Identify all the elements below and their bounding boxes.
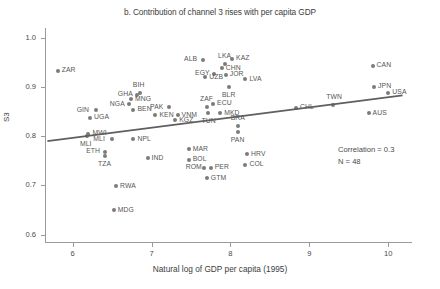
data-point-label: PAK [150,103,163,110]
data-point [167,105,171,109]
y-axis-line [45,28,46,243]
data-point-label: COL [249,160,263,167]
data-point-label: MDG [118,206,134,213]
data-point [85,134,89,138]
data-point [243,77,247,81]
data-point-label: ECU [217,99,232,106]
y-tick-label: 0.6 [10,230,36,239]
x-axis-line [45,242,412,243]
x-tick-mark [388,243,389,247]
data-point [386,91,390,95]
y-axis-title: S3 [2,112,11,122]
x-tick-label: 10 [377,249,399,258]
data-point [371,64,375,68]
data-point-label: ROM [186,163,202,170]
data-point-label: MAR [193,145,208,152]
data-point-label: NGA [110,100,125,107]
y-tick-label: 0.8 [10,131,36,140]
data-point-label: JPN [378,82,391,89]
data-point-label: UZB [209,73,223,80]
data-point [224,73,228,77]
data-point-label: NPL [137,135,151,142]
data-point [227,85,231,89]
data-point-label: CHL [300,103,314,110]
data-point-label: AUS [373,109,387,116]
correlation-text: Correlation = 0.3 [338,144,394,156]
data-point [230,57,234,61]
data-point-label: MLI [93,135,105,142]
data-point-label: IND [152,154,164,161]
data-point [173,118,177,122]
data-point [103,154,107,158]
data-point [206,111,210,115]
data-point-label: GIN [77,106,89,113]
data-point [112,208,116,212]
data-point [294,106,298,110]
y-tick-mark [41,38,45,39]
data-point [205,105,209,109]
data-point-label: PAN [231,136,245,143]
data-point [187,147,191,151]
data-point [218,111,222,115]
data-point-label: HRV [251,150,266,157]
data-point-label: BRA [231,114,245,121]
data-point-label: KGZ [179,116,193,123]
y-tick-mark [41,136,45,137]
data-point-label: USA [392,88,406,95]
data-point [205,176,209,180]
data-point [110,137,114,141]
data-point [127,102,131,106]
y-tick-label: 1.0 [10,33,36,42]
data-point [153,113,157,117]
data-point [129,97,133,101]
x-tick-label: 7 [141,249,163,258]
data-point [56,69,60,73]
data-point-label: LVA [249,75,261,82]
data-point-label: KEN [159,111,173,118]
data-point-label: ALB [184,55,197,62]
data-point [187,158,191,162]
y-tick-mark [41,87,45,88]
scatter-chart-figure: b. Contribution of channel 3 rises with … [0,0,440,289]
data-point-label: UGA [94,113,109,120]
data-point [372,85,376,89]
data-point [236,124,240,128]
data-point [211,102,215,106]
data-point-label: MLI [80,140,92,147]
data-point-label: TZA [98,160,111,167]
x-tick-label: 9 [298,249,320,258]
data-point [131,108,135,112]
data-point-label: ZAF [200,95,213,102]
y-tick-label: 0.7 [10,180,36,189]
data-point-label: TWN [326,93,342,100]
data-point [236,130,240,134]
data-point-label: JOR [230,70,244,77]
data-point [331,103,335,107]
data-point [88,116,92,120]
data-point-label: PER [215,163,229,170]
y-tick-mark [41,185,45,186]
data-point [243,163,247,167]
data-point [203,75,207,79]
x-tick-label: 8 [219,249,241,258]
chart-title: b. Contribution of channel 3 rises with … [0,7,440,17]
data-point-label: CAN [377,61,392,68]
data-point-label: RWA [120,182,136,189]
data-point-label: ZAR [62,66,76,73]
data-point-label: TUN [201,117,215,124]
x-tick-mark [73,243,74,247]
data-point-label: ETH [86,147,100,154]
data-point [245,152,249,156]
data-point [114,184,118,188]
x-axis-title: Natural log of GDP per capita (1995) [0,264,440,274]
x-tick-mark [230,243,231,247]
data-point [202,166,206,170]
data-point [94,108,98,112]
data-point-label: BIH [133,81,145,88]
data-point-label: KAZ [236,54,250,61]
data-point [367,111,371,115]
data-point [201,58,205,62]
x-tick-label: 6 [62,249,84,258]
x-tick-mark [309,243,310,247]
y-tick-mark [41,235,45,236]
